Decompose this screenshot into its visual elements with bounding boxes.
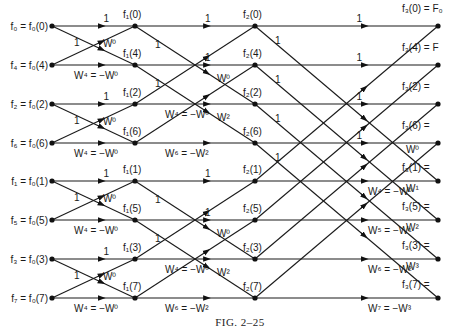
signal-node: [49, 295, 54, 300]
stage1-label: f₁(1): [123, 164, 141, 175]
signal-node: [49, 217, 54, 222]
stage1-weight: 1: [104, 246, 110, 257]
signal-node: [132, 217, 137, 222]
stage2-label: f₂(6): [243, 126, 262, 137]
stage2-label: f₂(5): [243, 203, 262, 214]
input-label: f₅ = f₀(5): [11, 215, 48, 226]
stage2-weight: W⁶ = −W²: [165, 303, 209, 314]
stage3-weight: W¹: [406, 183, 419, 194]
arrow-icon: [361, 233, 365, 236]
signal-node: [435, 217, 440, 222]
signal-node: [435, 140, 440, 145]
stage3-weight: W⁷ = −W³: [368, 303, 412, 314]
output-label: f₃(1) =: [402, 162, 430, 173]
stage1-weight: W⁴ = −W⁰: [74, 70, 118, 81]
signal-node: [132, 178, 137, 183]
stage1-label: f₁(4): [123, 48, 141, 59]
stage1-label: f₁(5): [123, 203, 141, 214]
signal-node: [132, 62, 137, 67]
stage1-weight: W⁰: [103, 271, 116, 282]
stage3-weight: 1: [275, 152, 281, 163]
arrow-icon: [100, 127, 102, 128]
signal-node: [435, 178, 440, 183]
stage2-label: f₂(4): [243, 48, 262, 59]
signal-node: [435, 295, 440, 300]
output-label: f₃(7) =: [402, 279, 430, 290]
stage2-weight: 1: [155, 39, 161, 50]
output-label: f₃(0) = F₀: [402, 3, 443, 14]
signal-node: [252, 295, 257, 300]
stage3-weight: W³: [406, 261, 419, 272]
signal-node: [252, 140, 257, 145]
stage2-label: f₂(0): [243, 9, 262, 20]
arrow-icon: [100, 42, 102, 43]
output-label: f₃(6) =: [402, 120, 430, 131]
output-label: f₃(3) =: [402, 240, 430, 251]
arrow-icon: [100, 120, 102, 121]
signal-node: [49, 62, 54, 67]
input-label: f₇ = f₀(7): [11, 293, 48, 304]
arrow-icon: [205, 226, 207, 228]
stage2-weight: 1: [155, 78, 161, 89]
stage2-weight: 1: [155, 233, 161, 244]
arrow-icon: [100, 49, 102, 50]
stage1-label: f₁(0): [123, 9, 141, 20]
stage1-weight: W⁴ = −W⁰: [74, 148, 118, 159]
stage2-label: f₂(3): [243, 242, 262, 253]
stage2-weight: 1: [205, 52, 211, 63]
arrow-icon: [361, 194, 365, 197]
stage2-weight: 1: [205, 207, 211, 218]
stage1-label: f₁(6): [123, 126, 141, 137]
stage1-label: f₁(3): [123, 242, 141, 253]
arrow-icon: [100, 197, 102, 198]
signal-node: [49, 256, 54, 261]
arrow-icon: [100, 282, 102, 283]
signal-node: [435, 23, 440, 28]
signal-node: [252, 62, 257, 67]
stage3-weight: 1: [357, 13, 363, 24]
stage2-label: f₂(7): [243, 281, 262, 292]
output-label: f₃(4) = F: [402, 42, 439, 53]
stage3-weight: W²: [406, 222, 419, 233]
stage2-weight: W²: [217, 112, 230, 123]
stage3-weight: 1: [275, 74, 281, 85]
stage3-weight: 1: [275, 113, 281, 124]
arrow-icon: [205, 71, 207, 73]
stage3-weight: 1: [357, 52, 363, 63]
signal-node: [252, 217, 257, 222]
stage1-weight: 1: [104, 13, 110, 24]
signal-node: [49, 101, 54, 106]
figure-caption: FIG. 2–25: [215, 316, 265, 328]
signal-node: [252, 256, 257, 261]
stage1-weight: W⁴ = −W⁰: [74, 303, 118, 314]
stage1-weight: 1: [74, 270, 80, 281]
input-label: f₀ = f₀(0): [11, 21, 48, 32]
input-label: f₃ = f₀(3): [11, 254, 48, 265]
stage2-weight: W⁴ = −W⁰: [165, 109, 209, 120]
input-label: f₂ = f₀(2): [11, 99, 48, 110]
butterfly-edges: [52, 26, 438, 298]
stage1-weight: W⁴ = −W⁰: [74, 225, 118, 236]
signal-node: [252, 23, 257, 28]
input-label: f₆ = f₀(6): [11, 138, 48, 149]
signal-node: [252, 178, 257, 183]
output-label: f₃(2) =: [402, 81, 430, 92]
signal-node: [132, 101, 137, 106]
arrow-icon: [205, 96, 207, 98]
stage3-weight: 1: [357, 130, 363, 141]
stage2-weight: 1: [205, 168, 211, 179]
signal-node: [49, 23, 54, 28]
signal-node: [132, 140, 137, 145]
stage2-weight: W⁰: [217, 228, 230, 239]
fft-butterfly-diagram: f₀ = f₀(0)f₁(0)f₂(0)f₃(0) = F₀f₄ = f₀(4)…: [0, 0, 471, 335]
arrow-icon: [361, 116, 365, 119]
stage2-weight: W⁰: [217, 73, 230, 84]
arrow-icon: [361, 166, 365, 169]
stage1-weight: 1: [74, 192, 80, 203]
stage2-weight: 1: [155, 194, 161, 205]
signal-node: [49, 178, 54, 183]
arrow-icon: [100, 275, 102, 276]
stage2-label: f₂(2): [243, 87, 262, 98]
signal-node: [132, 23, 137, 28]
signal-node: [252, 101, 257, 106]
